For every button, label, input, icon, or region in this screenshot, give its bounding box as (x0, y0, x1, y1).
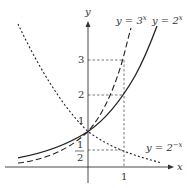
x-axis-label: x (177, 161, 183, 172)
y-tick-half-numerator: 1 (77, 139, 83, 150)
y-tick-2: 2 (78, 89, 84, 100)
curve-3-pow-x (18, 28, 131, 163)
curve-2-pow-neg-x (18, 24, 162, 163)
label-3-pow-x: y = 3x (115, 14, 147, 26)
y-axis-arrow-icon (86, 21, 91, 27)
x-axis-arrow-icon (168, 165, 174, 170)
label-2-pow-x: y = 2x (151, 14, 183, 26)
y-tick-3: 3 (78, 54, 84, 65)
exponential-graph: y x 3 2 1 1 2 1 y = 3x y = 2x y = 2−x (0, 0, 189, 188)
label-2-pow-neg-x: y = 2−x (145, 141, 183, 153)
y-tick-1: 1 (78, 115, 84, 126)
guide-lines (88, 60, 124, 167)
y-tick-half-denominator: 2 (77, 152, 83, 163)
curve-2-pow-x (18, 26, 157, 158)
y-axis-label: y (84, 6, 91, 17)
x-tick-1: 1 (121, 171, 127, 182)
